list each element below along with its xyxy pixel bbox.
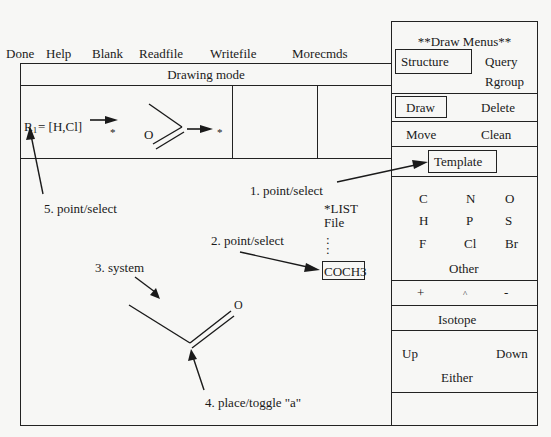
annotation-graphics: [0, 0, 551, 437]
callout-3-arrow-icon: [135, 277, 160, 299]
callout-4-arrow-icon: [188, 349, 204, 390]
canvas-molecule-bonds: [129, 305, 234, 348]
rgroup-arrow-1: [90, 116, 118, 124]
callout-2-arrow-icon: [240, 252, 320, 272]
callout-1-arrow-icon: [337, 160, 428, 182]
rgroup-carbonyl-bonds: [149, 104, 184, 149]
rgroup-arrow-2: [187, 125, 213, 133]
callout-5-arrow-icon: [26, 126, 43, 194]
